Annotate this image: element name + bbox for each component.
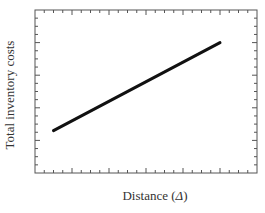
y-axis-label: Total inventory costs: [2, 41, 18, 150]
total-cost-line: [54, 43, 221, 131]
plot-area: [0, 0, 265, 213]
x-axis-label-prefix: Distance (: [122, 188, 175, 203]
y-axis-label-container: Total inventory costs: [0, 40, 20, 150]
total-inventory-cost-chart: Total inventory costs Distance (Δ): [0, 0, 265, 213]
plot-frame: [35, 10, 257, 173]
x-axis-label-suffix: ): [183, 188, 187, 203]
x-axis-label: Distance (Δ): [100, 188, 210, 204]
